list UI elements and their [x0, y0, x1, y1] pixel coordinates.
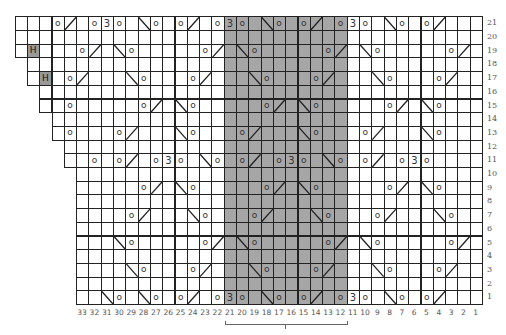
row-label: 8: [487, 196, 492, 205]
column-label: 33: [76, 308, 88, 317]
right-decrease-icon: [323, 264, 334, 277]
row-label: 13: [487, 128, 497, 137]
left-decrease-icon: [299, 100, 310, 113]
left-decrease-icon: [385, 17, 396, 30]
row-label: 17: [487, 73, 497, 82]
right-decrease-icon: [151, 100, 162, 113]
row-label: 18: [487, 59, 497, 68]
knitting-chart: oo3oooo3oooo3oooHoooooooHooooooooooooooo…: [0, 0, 506, 335]
right-decrease-icon: [434, 291, 445, 304]
column-label: 19: [248, 308, 260, 317]
right-decrease-icon: [372, 154, 383, 167]
left-decrease-icon: [360, 237, 371, 250]
right-decrease-icon: [385, 209, 396, 222]
column-label: 6: [408, 308, 420, 317]
left-decrease-icon: [385, 291, 396, 304]
left-decrease-icon: [114, 237, 125, 250]
left-decrease-icon: [262, 291, 273, 304]
column-label: 14: [310, 308, 322, 317]
column-label: 11: [347, 308, 359, 317]
right-decrease-icon: [446, 264, 457, 277]
left-decrease-icon: [262, 17, 273, 30]
left-decrease-icon: [176, 100, 187, 113]
right-decrease-icon: [311, 17, 322, 30]
left-decrease-icon: [188, 209, 199, 222]
repeat-bracket-tick: [285, 325, 286, 329]
right-decrease-icon: [434, 17, 445, 30]
right-decrease-icon: [65, 17, 76, 30]
left-decrease-icon: [360, 45, 371, 58]
left-decrease-icon: [299, 127, 310, 140]
column-label: 31: [101, 308, 113, 317]
column-label: 27: [150, 308, 162, 317]
left-decrease-icon: [249, 72, 260, 85]
right-decrease-icon: [397, 182, 408, 195]
right-decrease-icon: [458, 45, 469, 58]
column-label: 12: [334, 308, 346, 317]
left-decrease-icon: [139, 17, 150, 30]
column-label: 2: [457, 308, 469, 317]
right-decrease-icon: [274, 100, 285, 113]
row-label: 20: [487, 32, 497, 41]
column-label: 17: [273, 308, 285, 317]
row-label: 2: [487, 279, 492, 288]
left-decrease-icon: [422, 182, 433, 195]
column-label: 9: [371, 308, 383, 317]
right-decrease-icon: [397, 100, 408, 113]
right-decrease-icon: [89, 45, 100, 58]
left-decrease-icon: [114, 45, 125, 58]
right-decrease-icon: [335, 237, 346, 250]
row-label: 3: [487, 265, 492, 274]
column-label: 26: [162, 308, 174, 317]
row-label: 12: [487, 142, 497, 151]
right-decrease-icon: [249, 127, 260, 140]
row-label: 11: [487, 155, 497, 164]
column-label: 13: [322, 308, 334, 317]
left-decrease-icon: [200, 154, 211, 167]
right-decrease-icon: [188, 291, 199, 304]
row-label: 14: [487, 114, 497, 123]
right-decrease-icon: [200, 72, 211, 85]
right-decrease-icon: [311, 291, 322, 304]
row-label: 21: [487, 18, 497, 27]
column-label: 32: [88, 308, 100, 317]
left-decrease-icon: [102, 291, 113, 304]
right-decrease-icon: [212, 237, 223, 250]
right-decrease-icon: [323, 72, 334, 85]
left-decrease-icon: [237, 237, 248, 250]
row-label: 7: [487, 210, 492, 219]
right-decrease-icon: [77, 72, 88, 85]
row-label: 1: [487, 292, 492, 301]
column-label: 29: [125, 308, 137, 317]
row-label: 5: [487, 238, 492, 247]
row-label: 4: [487, 251, 492, 260]
column-label: 5: [421, 308, 433, 317]
left-decrease-icon: [372, 264, 383, 277]
right-decrease-icon: [126, 127, 137, 140]
column-label: 3: [445, 308, 457, 317]
left-decrease-icon: [126, 72, 137, 85]
row-label: 6: [487, 224, 492, 233]
right-decrease-icon: [446, 72, 457, 85]
column-label: 4: [433, 308, 445, 317]
column-label: 7: [396, 308, 408, 317]
column-label: 10: [359, 308, 371, 317]
right-decrease-icon: [139, 209, 150, 222]
column-label: 1: [470, 308, 482, 317]
column-label: 8: [384, 308, 396, 317]
column-label: 18: [261, 308, 273, 317]
column-label: 28: [138, 308, 150, 317]
column-label: 21: [224, 308, 236, 317]
left-decrease-icon: [422, 100, 433, 113]
right-decrease-icon: [126, 154, 137, 167]
right-decrease-icon: [458, 237, 469, 250]
right-decrease-icon: [151, 182, 162, 195]
left-decrease-icon: [139, 291, 150, 304]
column-label: 15: [298, 308, 310, 317]
left-decrease-icon: [372, 72, 383, 85]
left-decrease-icon: [249, 264, 260, 277]
row-label: 10: [487, 169, 497, 178]
left-decrease-icon: [422, 127, 433, 140]
right-decrease-icon: [188, 17, 199, 30]
left-decrease-icon: [176, 182, 187, 195]
